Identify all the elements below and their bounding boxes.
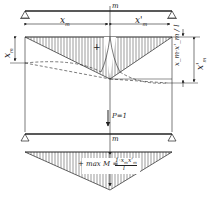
left-support-icon: [21, 11, 29, 18]
diagram-graphics: [0, 0, 214, 201]
ordinate-label: x_m·x'_m / l: [174, 25, 181, 66]
subscript: m: [143, 21, 148, 27]
right-support-icon: [168, 11, 176, 18]
right-vertical-label: x'm: [196, 58, 207, 70]
influence-line-diagram: m xm x'm + xm x_m·x'_m / l x'm P=1 m + m…: [0, 0, 214, 201]
right-span-label: x'm: [135, 16, 147, 27]
max-moment-label: max M =: [86, 161, 118, 168]
left-support-icon: [21, 134, 29, 141]
numerator-text: 1·x: [115, 156, 124, 163]
x-prime-symbol: x': [135, 15, 143, 25]
lower-beam: [21, 134, 176, 141]
max-moment-diagram: [25, 152, 172, 190]
top-beam: [20, 6, 177, 37]
plus-sign-bottom: +: [78, 161, 84, 168]
max-moment-denominator: l: [123, 165, 125, 171]
subscript: m: [201, 58, 207, 63]
x-prime-symbol: x': [195, 62, 205, 70]
subscript: m: [8, 48, 14, 53]
subscript: m: [133, 160, 137, 165]
load-label: P=1: [112, 113, 127, 120]
plus-sign-top: +: [93, 43, 101, 52]
x-symbol: x: [2, 53, 12, 58]
section-label-bottom: m: [112, 136, 119, 143]
left-vertical-label: xm: [3, 48, 14, 58]
right-support-icon: [168, 134, 176, 141]
left-span-label: xm: [60, 16, 70, 27]
section-label-top: m: [112, 3, 119, 10]
subscript: m: [65, 21, 70, 27]
max-moment-numerator: 1·xmx'm: [115, 157, 137, 166]
